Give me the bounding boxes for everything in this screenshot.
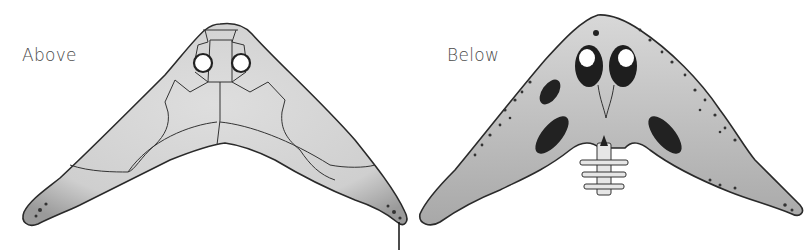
orbit-left-above [194, 54, 212, 72]
vertebrae [580, 143, 628, 195]
orbit-right-above [232, 54, 250, 72]
skull-outline-above [23, 23, 407, 225]
skull-illustration [0, 0, 811, 250]
orbit-left-below [575, 45, 603, 87]
skull-above-view [23, 23, 407, 225]
skull-below-view [420, 15, 803, 225]
orbit-right-below [609, 45, 637, 87]
horn-tip-texture [35, 202, 402, 219]
